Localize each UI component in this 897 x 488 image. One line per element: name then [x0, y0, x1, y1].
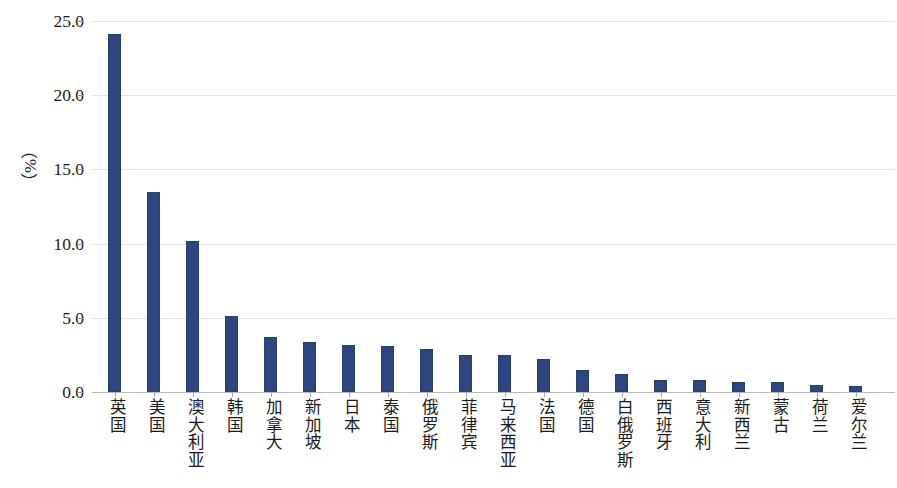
x-axis-category-label: 英国	[105, 398, 125, 433]
bar[interactable]	[498, 355, 511, 392]
x-axis-category-label: 荷兰	[807, 398, 827, 433]
x-axis-category-label: 蒙古	[768, 398, 788, 433]
bar[interactable]	[420, 349, 433, 392]
y-axis-tick-mark	[77, 244, 83, 245]
y-axis-tick-label: 0.0	[10, 382, 84, 403]
bar-chart: （%） 0.05.010.015.020.025.0 英国美国澳大利亚韩国加拿大…	[0, 0, 897, 488]
bar[interactable]	[732, 382, 745, 392]
x-axis-tick-mark	[115, 392, 116, 397]
x-axis-tick-mark	[310, 392, 311, 397]
x-axis-category-label: 加拿大	[261, 398, 281, 451]
x-axis-category-labels: 英国美国澳大利亚韩国加拿大新加坡日本泰国俄罗斯菲律宾马来西亚法国德国白俄罗斯西班…	[92, 398, 895, 488]
x-axis-tick-mark	[544, 392, 545, 397]
x-axis-tick-mark	[739, 392, 740, 397]
x-axis-tick-mark	[700, 392, 701, 397]
bar[interactable]	[108, 34, 121, 392]
x-axis-tick-mark	[427, 392, 428, 397]
bar[interactable]	[576, 370, 589, 392]
gridline	[92, 244, 895, 245]
x-axis-category-label: 新加坡	[300, 398, 320, 451]
y-axis-tick-mark	[77, 392, 83, 393]
x-axis-category-label: 菲律宾	[456, 398, 476, 451]
bar[interactable]	[225, 316, 238, 392]
bar[interactable]	[537, 359, 550, 392]
bar[interactable]	[615, 374, 628, 392]
y-axis-tick-label: 15.0	[10, 159, 84, 180]
gridline	[92, 95, 895, 96]
x-axis-tick-mark	[466, 392, 467, 397]
bar[interactable]	[303, 342, 316, 392]
x-axis-category-label: 泰国	[378, 398, 398, 433]
bar[interactable]	[654, 380, 667, 392]
bar[interactable]	[186, 241, 199, 392]
x-axis-category-label: 澳大利亚	[183, 398, 203, 468]
bar[interactable]	[147, 192, 160, 392]
x-axis-category-label: 美国	[144, 398, 164, 433]
x-axis-category-label: 德国	[573, 398, 593, 433]
y-axis-tick-label: 20.0	[10, 85, 84, 106]
bar[interactable]	[693, 380, 706, 392]
x-axis-category-label: 意大利	[690, 398, 710, 451]
y-axis-tick-labels: 0.05.010.015.020.025.0	[0, 21, 84, 392]
y-axis-tick-label: 25.0	[10, 11, 84, 32]
x-axis-category-label: 韩国	[222, 398, 242, 433]
x-axis-tick-mark	[232, 392, 233, 397]
bar[interactable]	[342, 345, 355, 392]
x-axis-tick-mark	[583, 392, 584, 397]
bar[interactable]	[810, 385, 823, 392]
gridline	[92, 169, 895, 170]
gridline	[92, 21, 895, 22]
x-axis-tick-mark	[778, 392, 779, 397]
x-axis-category-label: 白俄罗斯	[612, 398, 632, 468]
bar[interactable]	[381, 346, 394, 392]
x-axis-tick-mark	[193, 392, 194, 397]
x-axis-category-label: 法国	[534, 398, 554, 433]
x-axis-tick-mark	[388, 392, 389, 397]
y-axis-tick-mark	[77, 95, 83, 96]
x-axis-tick-mark	[622, 392, 623, 397]
bar[interactable]	[264, 337, 277, 392]
x-axis-tick-mark	[661, 392, 662, 397]
bar[interactable]	[771, 382, 784, 392]
x-axis-tick-mark	[271, 392, 272, 397]
x-axis-category-label: 日本	[339, 398, 359, 433]
y-axis-tick-label: 10.0	[10, 233, 84, 254]
x-axis-tick-mark	[856, 392, 857, 397]
x-axis-category-label: 俄罗斯	[417, 398, 437, 451]
y-axis-tick-mark	[77, 169, 83, 170]
y-axis-tick-mark	[77, 21, 83, 22]
bar[interactable]	[459, 355, 472, 392]
x-axis-tick-mark	[505, 392, 506, 397]
y-axis-tick-mark	[77, 318, 83, 319]
x-axis-category-label: 爱尔兰	[846, 398, 866, 451]
x-axis-tick-mark	[154, 392, 155, 397]
x-axis-tick-mark	[349, 392, 350, 397]
x-axis-tick-mark	[817, 392, 818, 397]
x-axis-category-label: 西班牙	[651, 398, 671, 451]
plot-area	[92, 21, 895, 392]
y-axis-tick-label: 5.0	[10, 307, 84, 328]
x-axis-category-label: 马来西亚	[495, 398, 515, 468]
x-axis-category-label: 新西兰	[729, 398, 749, 451]
gridline	[92, 318, 895, 319]
